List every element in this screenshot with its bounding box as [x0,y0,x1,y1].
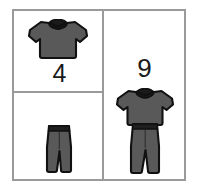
cell-number-right: 9 [105,55,184,81]
worksheet-canvas: 4 9 [0,0,198,191]
grid-cell-right[interactable]: 9 [105,13,184,179]
grid-cell-top-left[interactable]: 4 [16,13,103,92]
grid-frame: 4 9 [12,9,186,181]
pants-icon [40,123,78,175]
cell-number-left: 4 [16,61,103,86]
t-shirt-icon [27,19,89,61]
outfit-pants-part [131,124,159,173]
grid-cell-bottom-left[interactable] [16,93,103,179]
outfit-t-shirt-part [117,89,173,125]
outfit-icon [115,88,175,176]
